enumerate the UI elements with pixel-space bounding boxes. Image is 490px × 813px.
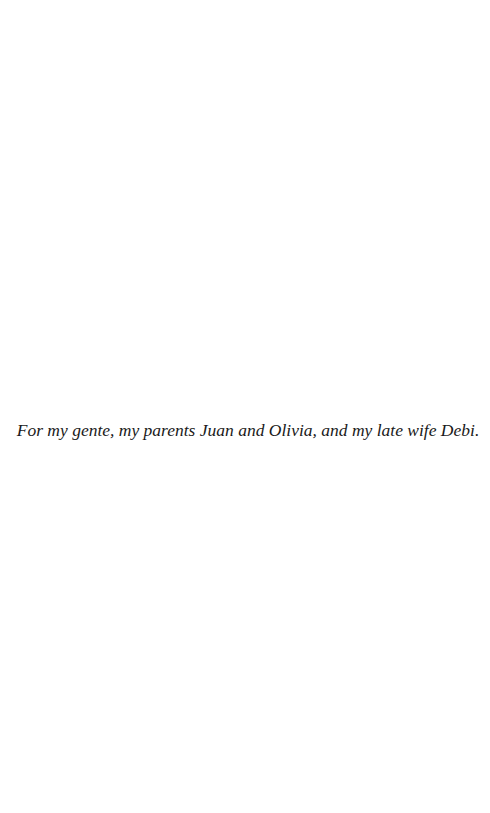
book-page: For my gente, my parents Juan and Olivia… (0, 0, 490, 813)
dedication-text: For my gente, my parents Juan and Olivia… (0, 419, 490, 441)
